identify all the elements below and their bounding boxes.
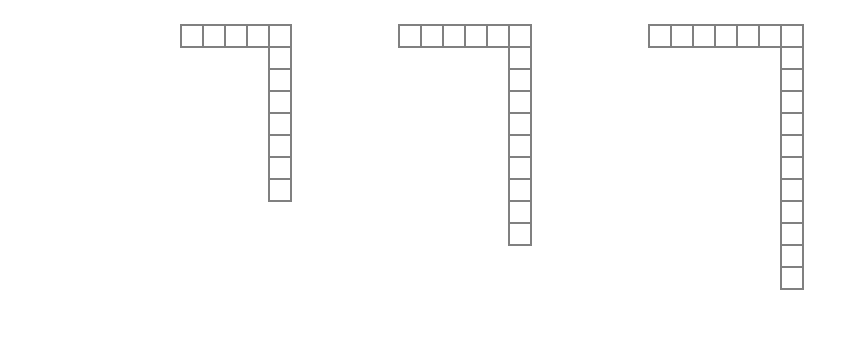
square-cell	[780, 24, 804, 48]
square-cell	[780, 222, 804, 246]
square-cell	[268, 134, 292, 158]
square-cell	[780, 200, 804, 224]
square-cell	[780, 244, 804, 268]
square-cell	[508, 24, 532, 48]
square-cell	[464, 24, 488, 48]
square-cell	[508, 46, 532, 70]
square-cell	[268, 178, 292, 202]
square-cell	[758, 24, 782, 48]
square-cell	[780, 156, 804, 180]
square-cell	[486, 24, 510, 48]
square-cell	[180, 24, 204, 48]
square-cell	[780, 266, 804, 290]
square-cell	[398, 24, 422, 48]
square-cell	[736, 24, 760, 48]
square-cell	[246, 24, 270, 48]
square-cell	[224, 24, 248, 48]
square-cell	[780, 46, 804, 70]
square-cell	[780, 112, 804, 136]
square-cell	[268, 156, 292, 180]
square-cell	[648, 24, 672, 48]
square-cell	[508, 68, 532, 92]
square-cell	[780, 134, 804, 158]
square-cell	[420, 24, 444, 48]
square-cell	[268, 46, 292, 70]
square-cell	[268, 24, 292, 48]
square-cell	[268, 68, 292, 92]
square-cell	[508, 90, 532, 114]
square-cell	[508, 222, 532, 246]
square-cell	[780, 90, 804, 114]
square-cell	[670, 24, 694, 48]
square-cell	[202, 24, 226, 48]
square-cell	[508, 200, 532, 224]
square-cell	[780, 68, 804, 92]
square-cell	[508, 156, 532, 180]
square-cell	[268, 112, 292, 136]
square-cell	[508, 178, 532, 202]
square-cell	[442, 24, 466, 48]
square-cell	[780, 178, 804, 202]
square-cell	[268, 90, 292, 114]
square-cell	[508, 134, 532, 158]
square-cell	[714, 24, 738, 48]
square-cell	[692, 24, 716, 48]
square-cell	[508, 112, 532, 136]
